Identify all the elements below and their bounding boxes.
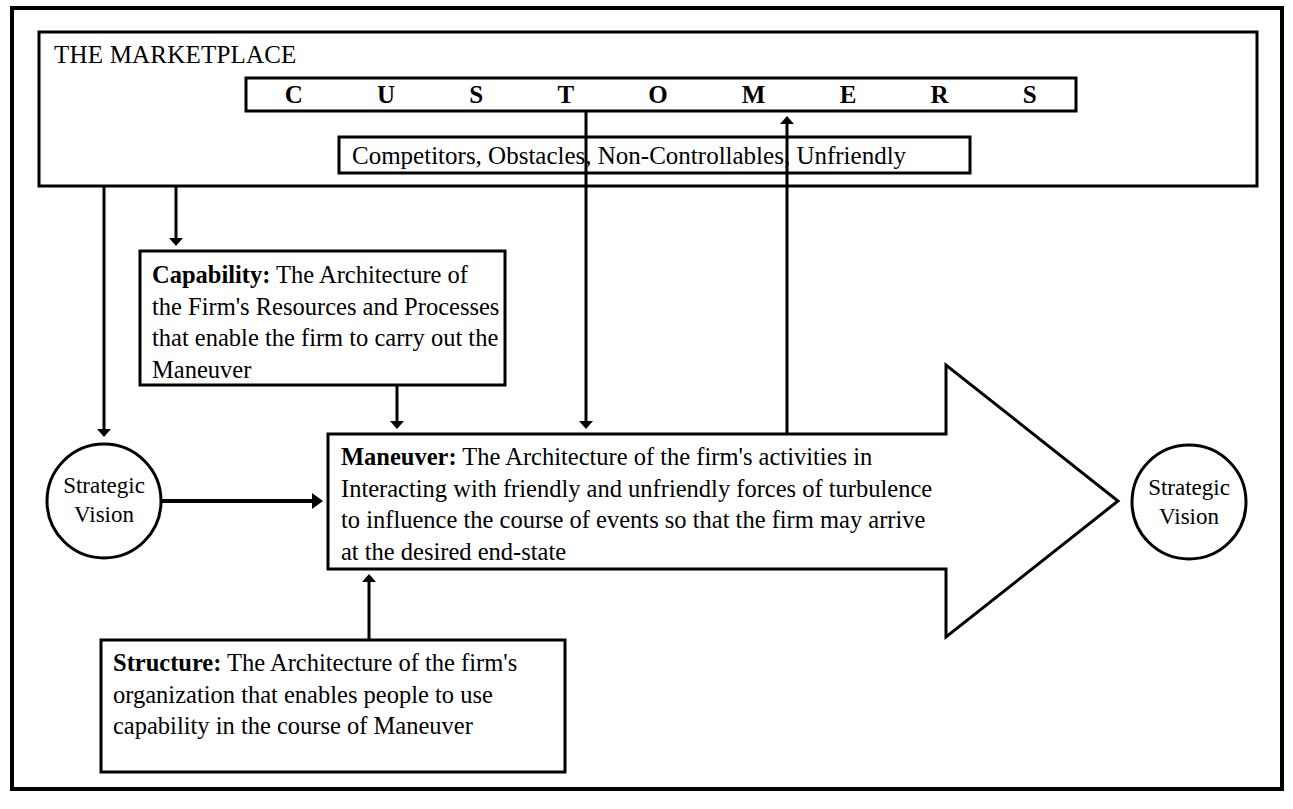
structure-body: The Architecture of the firm's organizat… (113, 649, 517, 739)
customers-letter-1: U (377, 81, 396, 109)
competitors-box (339, 137, 970, 173)
customers-letter-0: C (285, 81, 304, 109)
diagram-canvas: THE MARKETPLACE C U S T O M E R S Compet… (0, 0, 1293, 809)
outer-frame (12, 8, 1282, 789)
structure-label: Structure: The Architecture of the firm'… (113, 647, 558, 742)
customers-letter-8: S (1023, 81, 1037, 109)
customers-label: C U S T O M E R S (248, 80, 1074, 110)
maneuver-term: Maneuver: (341, 443, 457, 470)
diagram-vector-layer (0, 0, 1293, 809)
customers-letter-7: R (931, 81, 950, 109)
customers-letter-6: E (840, 81, 857, 109)
capability-body: The Architecture of the Firm's Resources… (152, 261, 499, 383)
customers-letter-5: M (742, 81, 766, 109)
structure-term: Structure: (113, 649, 221, 676)
maneuver-big-arrow (328, 365, 1118, 637)
customers-letter-4: O (648, 81, 668, 109)
marketplace-box (39, 32, 1257, 186)
strategic-vision-left-circle (47, 444, 161, 558)
structure-box (101, 640, 565, 772)
strategic-vision-right-line2: Vision (1131, 502, 1247, 531)
marketplace-label: THE MARKETPLACE (54, 40, 297, 70)
competitors-label: Competitors, Obstacles, Non-Controllable… (352, 142, 964, 169)
strategic-vision-right-line1: Strategic (1131, 473, 1247, 502)
customers-letter-3: T (557, 81, 574, 109)
maneuver-label: Maneuver: The Architecture of the firm's… (341, 441, 941, 567)
strategic-vision-right-circle (1132, 445, 1246, 559)
capability-term: Capability: (152, 261, 270, 288)
strategic-vision-left-line1: Strategic (46, 471, 162, 500)
maneuver-body: The Architecture of the firm's activitie… (341, 443, 932, 565)
capability-label: Capability: The Architecture of the Firm… (152, 259, 502, 385)
capability-box (140, 251, 505, 385)
strategic-vision-left-label: Strategic Vision (46, 471, 162, 529)
customers-box (246, 78, 1076, 111)
strategic-vision-left-line2: Vision (46, 500, 162, 529)
strategic-vision-right-label: Strategic Vision (1131, 473, 1247, 531)
customers-letter-2: S (469, 81, 483, 109)
